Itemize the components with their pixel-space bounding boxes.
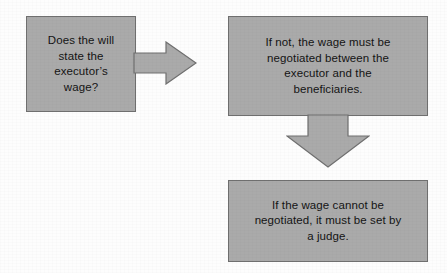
flowchart-node-decision[interactable]: Does the will state the executor’s wage?: [26, 16, 136, 112]
flowchart-node-decision-label: Does the will state the executor’s wage?: [27, 33, 135, 95]
flowchart-node-negotiate[interactable]: If not, the wage must be negotiated betw…: [228, 16, 428, 116]
flowchart-canvas: Does the will state the executor’s wage?…: [0, 0, 447, 273]
flowchart-node-negotiate-label: If not, the wage must be negotiated betw…: [229, 35, 427, 97]
arrow-down-icon: [286, 114, 370, 168]
flowchart-node-judge-label: If the wage cannot be negotiated, it mus…: [229, 198, 427, 245]
arrow-right-icon: [133, 41, 197, 85]
flowchart-node-judge[interactable]: If the wage cannot be negotiated, it mus…: [228, 180, 428, 262]
